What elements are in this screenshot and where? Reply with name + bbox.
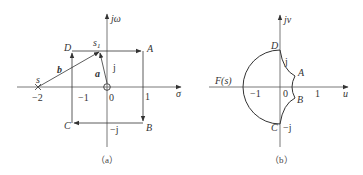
point-D-label: D	[270, 40, 279, 51]
vector-b-label: b	[57, 64, 62, 75]
u-axis-label: u	[343, 88, 348, 99]
vector-a-label: a	[95, 68, 100, 79]
caption-a: （a）	[96, 155, 118, 165]
vector-a	[100, 53, 107, 83]
jv-axis-label: jv	[282, 14, 292, 25]
point-A-label: A	[297, 67, 305, 78]
point-C-label: C	[271, 122, 278, 133]
tick-0-label: 0	[109, 92, 114, 103]
point-A-label: A	[146, 43, 154, 54]
vector-b	[38, 52, 99, 87]
tick-1-label: 1	[145, 91, 150, 102]
tick-1-label: 1	[315, 88, 320, 99]
tick-j-label: j	[112, 62, 116, 73]
tick-neg2-label: −2	[32, 92, 43, 103]
tick-neg1-label: −1	[250, 88, 261, 99]
point-s-label: s	[36, 74, 40, 85]
figure-b-F-plane: jv u D A B C j −j −1 0 1 F(s) （b）	[209, 14, 348, 165]
point-B-label: B	[146, 122, 152, 133]
caption-b: （b）	[270, 155, 293, 165]
point-B-label: B	[297, 94, 303, 105]
point-s1-label: s1	[93, 37, 100, 50]
point-C-label: C	[64, 120, 71, 131]
point-D-label: D	[63, 42, 72, 53]
figure-canvas: jω σ D A B C s1 s b a j −j −2 −1 0 1 （a）…	[0, 0, 363, 175]
tick-neg1-label: −1	[78, 92, 89, 103]
jw-axis-label: jω	[109, 13, 121, 24]
tick-neg-j-label: −j	[283, 122, 291, 133]
tick-j-label: j	[284, 56, 288, 67]
tick-0-label: 0	[283, 88, 288, 99]
sigma-axis-label: σ	[176, 88, 182, 99]
function-label: F(s)	[214, 75, 232, 87]
tick-neg-j-label: −j	[110, 124, 118, 135]
figure-a-s-plane: jω σ D A B C s1 s b a j −j −2 −1 0 1 （a）	[17, 13, 182, 165]
